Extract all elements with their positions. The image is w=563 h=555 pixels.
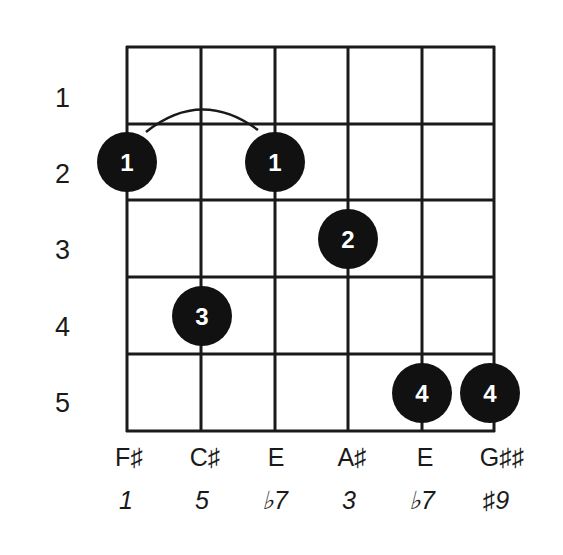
note-name: F♯ [115,443,143,471]
note-name: E [417,443,434,471]
interval-label: 3 [342,486,356,514]
finger-number: 3 [195,303,208,330]
note-name: E [268,443,285,471]
finger-number: 4 [415,380,429,407]
interval-label: 5 [195,486,209,514]
finger-dot: 2 [318,209,378,269]
finger-dot: 3 [172,286,232,346]
fret-number-2: 2 [55,159,70,189]
fret-number-4: 4 [55,312,70,342]
note-name: C♯ [190,443,221,471]
intervals: 1 5 ♭7 3 ♭7 ♯9 [119,486,509,514]
finger-dot: 1 [245,132,305,192]
note-name: G♯♯ [480,443,524,471]
finger-dot: 4 [392,363,452,423]
finger-dot: 1 [97,132,157,192]
finger-number: 2 [341,226,354,253]
fret-number-3: 3 [55,235,70,265]
fret-number-5: 5 [55,388,70,418]
note-name: A♯ [337,443,366,471]
interval-label: ♭7 [409,486,436,514]
interval-label: 1 [119,486,133,514]
fret-number-1: 1 [55,83,70,113]
interval-label: ♯9 [483,486,510,514]
finger-number: 1 [268,149,281,176]
note-names: F♯ C♯ E A♯ E G♯♯ [115,443,524,471]
chord-diagram: 1 2 3 4 5 1 1 2 3 [0,0,563,555]
finger-dot: 4 [460,363,520,423]
finger-number: 1 [120,149,133,176]
finger-number: 4 [483,380,497,407]
fret-numbers: 1 2 3 4 5 [55,83,70,418]
interval-label: ♭7 [262,486,289,514]
